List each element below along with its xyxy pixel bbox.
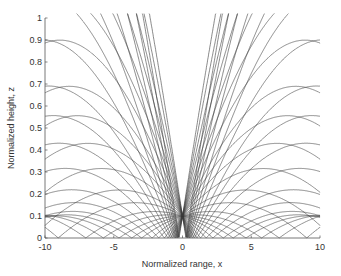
y-tick-label: 0.3 [29,167,42,177]
y-axis-title: Normalized height, z [6,86,16,169]
ray-path [183,143,321,216]
x-tick-label: -10 [38,242,51,252]
ray-path [127,14,182,238]
y-tick-label: 1 [37,13,42,23]
ray-path-chart: -10-50510 00.10.20.30.40.50.60.70.80.91 … [0,0,341,276]
x-tick-label: 10 [315,242,325,252]
ray-path [45,143,183,216]
ray-path [91,14,183,216]
ray-path [128,14,183,216]
ray-path [45,143,183,238]
y-tick-label: 0.4 [29,145,42,155]
y-tick-label: 0.8 [29,57,42,67]
ray-path [183,203,321,238]
ray-path [183,14,238,238]
ray-path [45,40,183,238]
y-tick-label: 0.2 [29,189,42,199]
ray-path [183,143,321,238]
y-tick-label: 0.1 [29,211,42,221]
y-tick-label: 0.5 [29,123,42,133]
ray-paths [45,14,320,238]
x-tick-label: -5 [110,242,118,252]
ray-path [45,203,183,238]
y-tick-label: 0.7 [29,79,42,89]
ray-path [183,14,265,238]
y-tick-label: 0 [37,233,42,243]
y-tick-label: 0.6 [29,101,42,111]
ray-path [45,203,183,238]
ray-path [183,14,216,216]
ray-path [149,14,182,216]
ray-path [183,40,321,238]
ray-path [183,203,321,238]
x-axis-title: Normalized range, x [142,259,223,269]
x-tick-label: 5 [249,242,254,252]
ray-path [183,14,275,216]
x-tick-label: 0 [180,242,185,252]
y-tick-label: 0.9 [29,35,42,45]
ray-path [101,14,183,238]
ray-path [183,14,238,216]
